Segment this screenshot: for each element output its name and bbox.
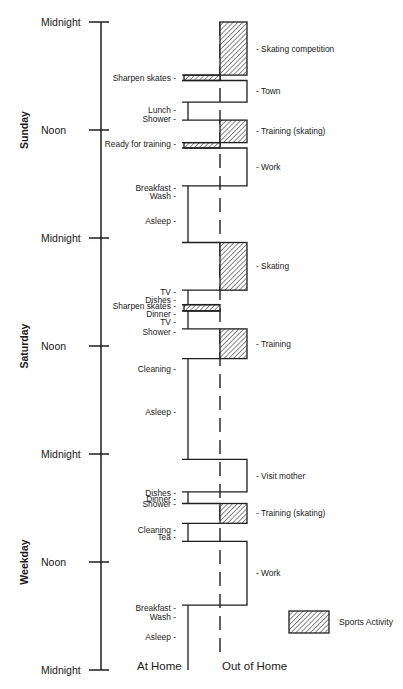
day-label: Sunday bbox=[18, 111, 30, 149]
axis-tick-label: Midnight bbox=[41, 448, 81, 460]
at-home-activity-label: Shower - bbox=[142, 327, 176, 337]
out-of-home-activity-label: - Training (skating) bbox=[256, 126, 326, 136]
column-label-out-of-home: Out of Home bbox=[222, 660, 287, 672]
out-of-home-box bbox=[220, 81, 247, 103]
at-home-activity-label: Lunch - bbox=[148, 105, 176, 115]
at-home-activity-label: Breakfast - bbox=[136, 183, 177, 193]
home-sports-activity-bar bbox=[184, 305, 220, 311]
out-of-home-activity-label: - Visit mother bbox=[256, 471, 305, 481]
out-of-home-activity-label: - Skating bbox=[256, 261, 289, 271]
out-of-home-activity-label: - Work bbox=[256, 162, 281, 172]
time-use-timeline-chart: MidnightNoonMidnightNoonMidnightNoonMidn… bbox=[0, 0, 403, 689]
out-of-home-box bbox=[220, 148, 247, 186]
axis-tick-label: Noon bbox=[41, 124, 66, 136]
at-home-activity-label: Dishes - bbox=[145, 488, 176, 498]
chart-base-layer: MidnightNoonMidnightNoonMidnightNoonMidn… bbox=[18, 16, 220, 676]
day-label: Weekday bbox=[18, 539, 30, 584]
out-of-home-sports-box bbox=[220, 22, 247, 75]
axis-tick-label: Midnight bbox=[41, 664, 81, 676]
home-sports-activity-bar bbox=[184, 143, 220, 148]
at-home-activity-label: Cleaning - bbox=[138, 525, 176, 535]
home-sports-activity-bar bbox=[184, 75, 220, 80]
out-of-home-activity-label: - Town bbox=[256, 86, 281, 96]
axis-tick-label: Midnight bbox=[41, 232, 81, 244]
axis-tick-label: Noon bbox=[41, 340, 66, 352]
at-home-activity-label: Cleaning - bbox=[138, 364, 176, 374]
at-home-activity-label: Wash - bbox=[150, 612, 176, 622]
out-of-home-sports-box bbox=[220, 504, 247, 524]
out-of-home-activity-label: - Training bbox=[256, 339, 291, 349]
at-home-activity-label: Breakfast - bbox=[136, 603, 177, 613]
legend-label: Sports Activity bbox=[339, 617, 394, 627]
activity-segments bbox=[182, 22, 247, 670]
out-of-home-activity-label: - Skating competition bbox=[256, 44, 335, 54]
at-home-activity-label: Ready for training - bbox=[105, 139, 176, 149]
at-home-activity-label: Asleep - bbox=[145, 632, 176, 642]
column-label-at-home: At Home bbox=[137, 660, 182, 672]
out-of-home-sports-box bbox=[220, 329, 247, 359]
at-home-activity-label: Shower - bbox=[142, 114, 176, 124]
at-home-activity-label: Asleep - bbox=[145, 407, 176, 417]
out-of-home-sports-box bbox=[220, 243, 247, 291]
out-of-home-box bbox=[220, 541, 247, 605]
out-of-home-sports-box bbox=[220, 120, 247, 143]
axis-tick-label: Noon bbox=[41, 556, 66, 568]
out-of-home-box bbox=[220, 459, 247, 491]
legend: Sports Activity bbox=[289, 611, 394, 633]
legend-swatch-hatched bbox=[289, 611, 329, 633]
out-of-home-activity-label: - Work bbox=[256, 568, 281, 578]
out-of-home-activity-label: - Training (skating) bbox=[256, 508, 326, 518]
at-home-activity-label: TV - bbox=[160, 287, 176, 297]
at-home-activity-label: Asleep - bbox=[145, 216, 176, 226]
axis-tick-label: Midnight bbox=[41, 16, 81, 28]
at-home-activity-label: Sharpen skates - bbox=[113, 73, 177, 83]
day-label: Saturday bbox=[18, 323, 30, 368]
